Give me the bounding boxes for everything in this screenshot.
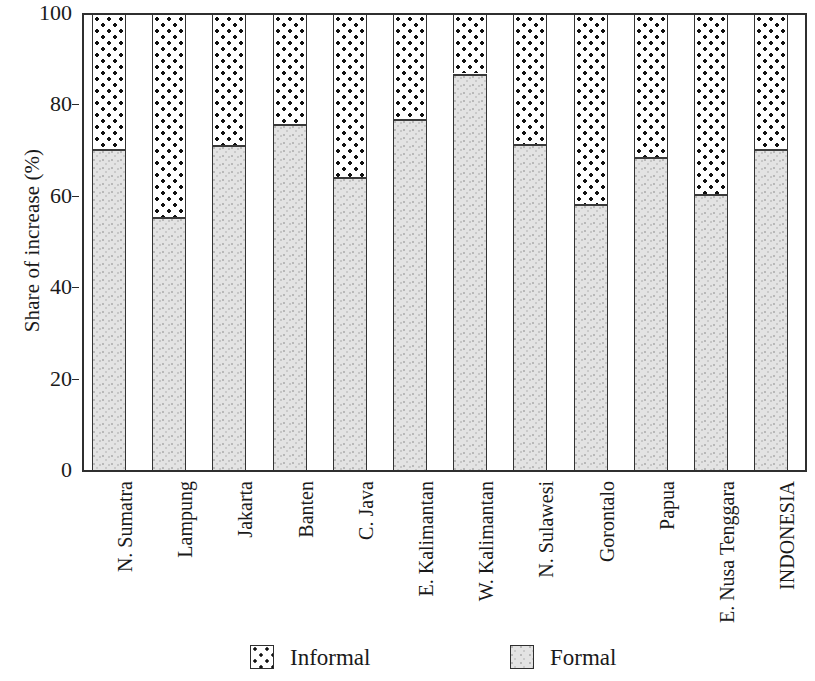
bar-banten: [273, 15, 307, 472]
bar-jakarta: [212, 15, 246, 472]
y-tick-label: 40: [26, 276, 72, 298]
bar-w-kalimantan: [453, 15, 487, 472]
segment-formal: [574, 204, 608, 472]
dotted-swatch: [250, 645, 274, 669]
y-tick-label: 80: [26, 93, 72, 115]
y-tick-label: 0: [26, 459, 72, 481]
y-tick-mark: [72, 379, 79, 380]
legend-label: Informal: [290, 646, 370, 669]
bar-indonesia: [754, 15, 788, 472]
chart-legend: InformalFormal: [0, 640, 815, 680]
gray-swatch: [510, 645, 534, 669]
bar-lampung: [152, 15, 186, 472]
segment-formal: [92, 149, 126, 472]
bar-e-nusa-tenggara: [694, 15, 728, 472]
segment-formal: [453, 74, 487, 473]
y-tick-label: 20: [26, 368, 72, 390]
x-axis-line: [82, 470, 807, 472]
segment-informal: [634, 15, 668, 157]
y-tick-mark: [72, 104, 79, 105]
segment-formal: [634, 157, 668, 472]
segment-formal: [393, 119, 427, 472]
segment-informal: [393, 15, 427, 119]
segment-informal: [152, 15, 186, 217]
plot-area: [82, 13, 807, 472]
bar-n-sulawesi: [513, 15, 547, 472]
segment-formal: [513, 144, 547, 472]
segment-formal: [694, 194, 728, 472]
segment-informal: [273, 15, 307, 124]
segment-informal: [574, 15, 608, 204]
stacked-bar-chart: Share of increase (%) 100806040200 N. Su…: [0, 0, 815, 681]
segment-informal: [453, 15, 487, 73]
legend-item-informal[interactable]: Informal: [250, 640, 370, 674]
segment-informal: [212, 15, 246, 145]
segment-formal: [333, 177, 367, 472]
bar-e-kalimantan: [393, 15, 427, 472]
plot-right-border: [805, 13, 807, 472]
y-tick-label: 100: [26, 2, 72, 24]
y-tick-mark: [72, 196, 79, 197]
segment-informal: [92, 15, 126, 149]
y-axis-tick-labels: 100806040200: [12, 0, 72, 481]
segment-informal: [333, 15, 367, 177]
bar-gorontalo: [574, 15, 608, 472]
bar-n-sumatra: [92, 15, 126, 472]
bar-c-java: [333, 15, 367, 472]
y-tick-mark: [72, 287, 79, 288]
segment-formal: [273, 124, 307, 472]
segment-formal: [754, 149, 788, 472]
segment-informal: [513, 15, 547, 144]
segment-formal: [152, 217, 186, 472]
segment-formal: [212, 145, 246, 472]
bar-papua: [634, 15, 668, 472]
y-tick-label: 60: [26, 185, 72, 207]
segment-informal: [754, 15, 788, 149]
legend-item-formal[interactable]: Formal: [510, 640, 616, 674]
legend-label: Formal: [550, 646, 616, 669]
segment-informal: [694, 15, 728, 194]
